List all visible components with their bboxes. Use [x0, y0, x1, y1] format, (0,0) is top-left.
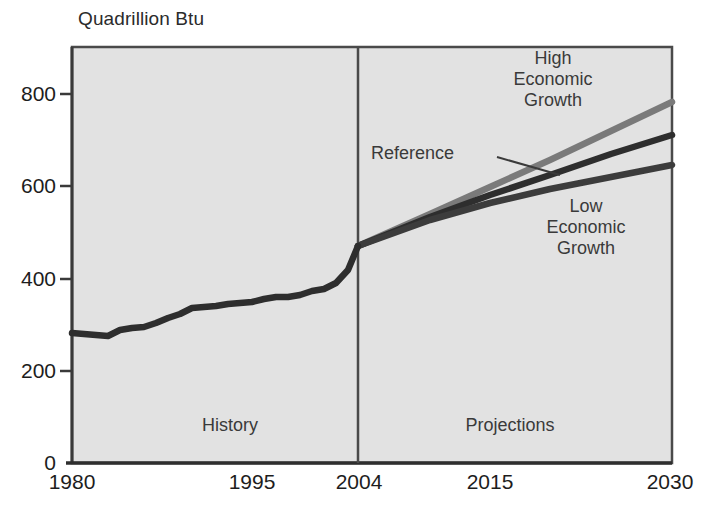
y-tick-label-800: 800 [0, 82, 56, 106]
annotation-high-line-2: Economic [483, 69, 623, 90]
y-tick-label-400: 400 [0, 267, 56, 291]
annotation-high-line-1: High [483, 48, 623, 69]
annotation-low-line-2: Economic [516, 217, 656, 238]
y-tick-label-600: 600 [0, 174, 56, 198]
annotation-reference: Reference [371, 143, 501, 164]
x-tick-label-1980: 1980 [32, 470, 112, 494]
x-tick-label-1995: 1995 [212, 470, 292, 494]
x-tick-label-2015: 2015 [450, 470, 530, 494]
region-label-projections: Projections [440, 415, 580, 436]
x-tick-label-2030: 2030 [630, 470, 707, 494]
annotation-reference-line-1: Reference [371, 143, 501, 164]
y-tick-label-200: 200 [0, 359, 56, 383]
region-label-history: History [175, 415, 285, 436]
annotation-low-line-3: Growth [516, 238, 656, 259]
x-tick-label-2004: 2004 [319, 470, 399, 494]
annotation-low-line-1: Low [516, 196, 656, 217]
y-axis-ticks [60, 94, 72, 371]
annotation-high-economic-growth: High Economic Growth [483, 48, 623, 111]
annotation-high-line-3: Growth [483, 90, 623, 111]
annotation-low-economic-growth: Low Economic Growth [516, 196, 656, 259]
